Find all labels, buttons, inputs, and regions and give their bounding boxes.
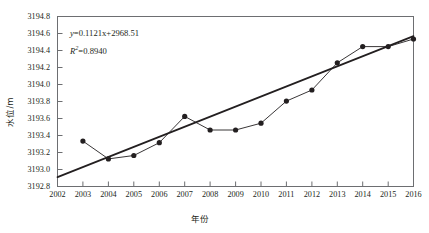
data-point <box>411 36 416 41</box>
data-point <box>233 127 238 132</box>
r-squared-value: =0.8940 <box>78 46 106 56</box>
data-point <box>309 87 314 92</box>
y-tick-label: 3193.2 <box>4 149 50 157</box>
r-squared-annotation: R2=0.8940 <box>70 45 107 55</box>
data-point <box>157 140 162 145</box>
y-tick-label: 3192.8 <box>4 183 50 191</box>
y-tick-label: 3194.2 <box>4 64 50 72</box>
y-tick-label: 3194.6 <box>4 30 50 38</box>
data-point <box>80 139 85 144</box>
y-tick-label: 3193.0 <box>4 166 50 174</box>
data-point <box>284 99 289 104</box>
data-point <box>131 153 136 158</box>
plot-frame <box>58 17 414 187</box>
data-point <box>360 44 365 49</box>
data-point <box>106 156 111 161</box>
regression-equation-annotation: y=0.1121x+2968.51 <box>70 29 139 38</box>
data-point <box>182 114 187 119</box>
y-axis-title: 水位/m <box>3 92 15 132</box>
data-point <box>258 121 263 126</box>
data-point <box>386 44 391 49</box>
x-axis-ticks <box>58 182 414 187</box>
y-tick-label: 3194.4 <box>4 47 50 55</box>
data-point <box>335 60 340 65</box>
trend-line <box>58 36 414 177</box>
x-tick-label: 2016 <box>397 191 429 199</box>
water-level-line-chart: 3192.8 3193.0 3193.2 3193.4 3193.6 3193.… <box>0 0 429 233</box>
y-tick-label: 3194.0 <box>4 81 50 89</box>
data-point <box>208 127 213 132</box>
equation-expression: =0.1121x+2968.51 <box>74 28 139 38</box>
y-tick-label: 3194.8 <box>4 13 50 21</box>
y-axis-ticks <box>58 17 63 187</box>
x-axis-title: 年份 <box>180 212 220 224</box>
y-tick-label: 3193.4 <box>4 132 50 140</box>
data-series-line <box>83 39 414 159</box>
